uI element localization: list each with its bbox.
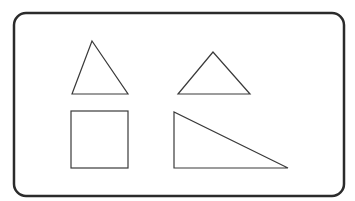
square	[71, 111, 128, 168]
obtuse-triangle	[178, 52, 250, 94]
right-triangle	[174, 112, 288, 168]
shapes-diagram	[0, 0, 355, 201]
acute-triangle	[72, 41, 128, 94]
